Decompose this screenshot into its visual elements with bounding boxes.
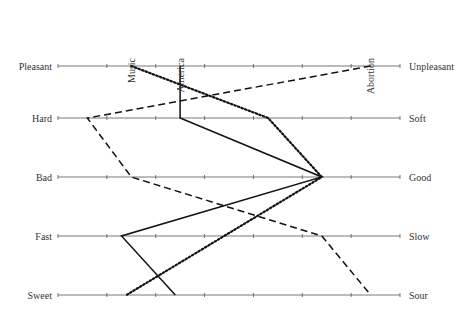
scale-row: PleasantUnpleasant [19, 61, 455, 72]
series-label-abortion: Abortion [365, 58, 376, 94]
scale-left-label: Sweet [28, 290, 53, 301]
scale-right-label: Soft [409, 113, 426, 124]
scale-left-label: Hard [32, 113, 52, 124]
scale-right-label: Slow [409, 231, 430, 242]
scale-row: HardSoft [32, 113, 426, 124]
series-label-music: Music [126, 57, 137, 83]
series-label-america: America [175, 57, 186, 92]
scale-row: FastSlow [35, 231, 430, 242]
scale-axes: PleasantUnpleasantHardSoftBadGoodFastSlo… [19, 61, 455, 301]
scale-right-label: Unpleasant [409, 61, 454, 72]
series-lines [87, 66, 370, 295]
scale-left-label: Pleasant [19, 61, 53, 72]
scale-left-label: Fast [35, 231, 52, 242]
scale-row: BadGood [36, 172, 431, 183]
semantic-differential-chart: PleasantUnpleasantHardSoftBadGoodFastSlo… [0, 0, 467, 319]
scale-left-label: Bad [36, 172, 52, 183]
series-line-abortion [87, 66, 370, 295]
series-line-music [126, 66, 321, 295]
scale-right-label: Sour [409, 290, 429, 301]
scale-right-label: Good [409, 172, 431, 183]
